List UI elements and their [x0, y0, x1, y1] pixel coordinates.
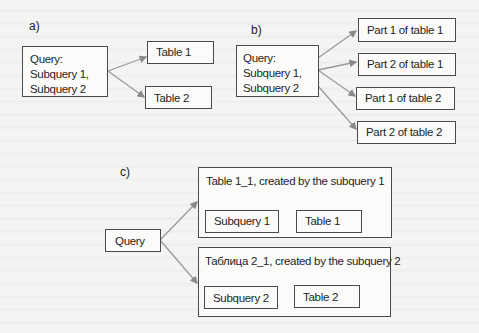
- subquery-label: Subquery 2: [213, 293, 269, 305]
- panel-a-label: a): [29, 19, 40, 33]
- part-label: Part 2 of table 2: [366, 127, 442, 139]
- panel-b-query-box: Query: Subquery 1, Subquery 2: [236, 45, 319, 97]
- subquery-label: Subquery 1: [214, 216, 270, 228]
- panel-b-label: b): [251, 23, 262, 37]
- query-label: Query: [115, 236, 145, 248]
- panel-b-part-1-table-2: Part 1 of table 2: [356, 87, 455, 110]
- table-label: Table 1: [156, 47, 191, 59]
- panel-a-table-2: Table 2: [145, 86, 212, 109]
- query-line: Query:: [243, 53, 276, 65]
- query-line: Subquery 2: [30, 84, 86, 96]
- group-title: Table 1_1, created by the subquery 1: [206, 176, 384, 188]
- query-line: Subquery 1,: [30, 69, 89, 81]
- query-line: Subquery 1,: [243, 68, 302, 80]
- subquery-1-box: Subquery 1: [205, 210, 279, 233]
- query-line: Subquery 2: [243, 83, 299, 95]
- subquery-2-box: Subquery 2: [204, 286, 278, 309]
- table-label: Table 2: [303, 292, 338, 304]
- panel-c-label: c): [120, 165, 130, 179]
- panel-b-part-2-table-1: Part 2 of table 1: [358, 53, 456, 76]
- panel-a-query-box: Query: Subquery 1, Subquery 2: [22, 46, 108, 97]
- panel-c-group-1: Table 1_1, created by the subquery 1 Sub…: [198, 167, 392, 238]
- part-label: Part 2 of table 1: [367, 59, 443, 71]
- table-label: Table 1: [305, 216, 340, 228]
- query-line: Query:: [30, 54, 63, 66]
- part-label: Part 1 of table 2: [365, 93, 441, 105]
- panel-b-part-1-table-1: Part 1 of table 1: [358, 18, 456, 42]
- panel-a-table-1: Table 1: [147, 41, 214, 64]
- panel-c-group-2: Таблица 2_1, created by the subquery 2 S…: [198, 247, 391, 317]
- panel-c-query-box: Query: [105, 229, 161, 252]
- table-2-box: Table 2: [294, 285, 360, 308]
- panel-b-part-2-table-2: Part 2 of table 2: [357, 121, 456, 144]
- group-title: Таблица 2_1, created by the subquery 2: [205, 256, 400, 268]
- table-label: Table 2: [154, 93, 189, 105]
- table-1-box: Table 1: [296, 210, 362, 233]
- part-label: Part 1 of table 1: [367, 25, 443, 37]
